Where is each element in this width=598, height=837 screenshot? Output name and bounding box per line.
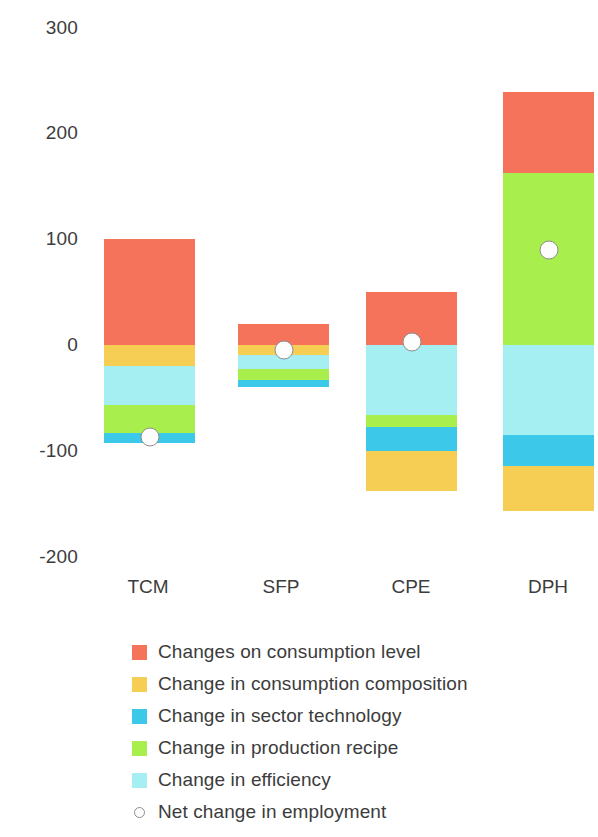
legend-item[interactable]: Changes on consumption level [132, 636, 592, 668]
x-axis-label-cpe: CPE [391, 576, 430, 598]
legend-label: Changes on consumption level [158, 641, 421, 663]
bar-segment [503, 345, 594, 435]
bar-group-tcm [104, 0, 195, 600]
plot-area: TCM SFP CPE DPH [78, 0, 598, 600]
y-axis-tick-0: 0 [16, 334, 78, 356]
legend-item[interactable]: Change in production recipe [132, 732, 592, 764]
legend-label: Change in sector technology [158, 705, 402, 727]
bar-segment [238, 380, 329, 387]
legend-swatch-icon [132, 773, 147, 788]
legend-label: Change in production recipe [158, 737, 398, 759]
bar-segment [366, 451, 457, 491]
x-axis-label-sfp: SFP [263, 576, 300, 598]
bar-segment [104, 239, 195, 345]
legend-label: Net change in employment [158, 801, 386, 823]
legend-open-circle-icon [132, 805, 147, 820]
legend-item[interactable]: Change in consumption composition [132, 668, 592, 700]
legend-label: Change in efficiency [158, 769, 331, 791]
net-change-marker [140, 427, 159, 446]
y-axis-tick-300: 300 [16, 17, 78, 39]
chart-legend: Changes on consumption levelChange in co… [132, 636, 592, 828]
bar-group-sfp [238, 0, 329, 600]
legend-swatch-icon [132, 645, 147, 660]
y-axis-tick-200: 200 [16, 122, 78, 144]
net-change-marker [274, 341, 293, 360]
legend-swatch-icon [132, 677, 147, 692]
y-axis-tick-neg200: -200 [16, 546, 78, 568]
bar-group-dph [503, 0, 594, 600]
y-axis-tick-100: 100 [16, 228, 78, 250]
bar-segment [238, 369, 329, 380]
bar-segment [104, 345, 195, 366]
legend-label: Change in consumption composition [158, 673, 468, 695]
bar-segment [366, 415, 457, 428]
legend-item[interactable]: Change in sector technology [132, 700, 592, 732]
bar-group-cpe [366, 0, 457, 600]
stacked-bar-chart: 300 200 100 0 -100 -200 TCM SFP CPE DPH … [0, 0, 598, 837]
x-axis-label-dph: DPH [528, 576, 568, 598]
bar-segment [104, 366, 195, 405]
legend-item[interactable]: Net change in employment [132, 796, 592, 828]
y-axis: 300 200 100 0 -100 -200 [0, 0, 78, 600]
net-change-marker [539, 240, 558, 259]
bar-segment [503, 92, 594, 173]
legend-swatch-icon [132, 709, 147, 724]
y-axis-tick-neg100: -100 [16, 440, 78, 462]
bar-segment [503, 466, 594, 510]
net-change-marker [402, 332, 421, 351]
legend-swatch-icon [132, 741, 147, 756]
bar-segment [366, 427, 457, 450]
x-axis-label-tcm: TCM [127, 576, 168, 598]
bar-segment [503, 435, 594, 467]
bar-segment [366, 345, 457, 415]
legend-item[interactable]: Change in efficiency [132, 764, 592, 796]
